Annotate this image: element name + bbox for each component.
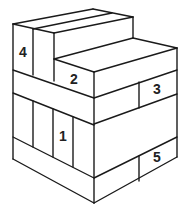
left-face-bands [13, 70, 94, 178]
label-block-3: 3 [153, 81, 161, 97]
label-block-1: 1 [59, 128, 67, 144]
label-block-2: 2 [70, 71, 78, 87]
block-2 [54, 38, 177, 72]
block-stack-diagram: 1 2 3 4 5 [0, 0, 193, 215]
label-block-5: 5 [153, 149, 161, 165]
outline [13, 24, 177, 203]
label-block-4: 4 [19, 44, 27, 60]
